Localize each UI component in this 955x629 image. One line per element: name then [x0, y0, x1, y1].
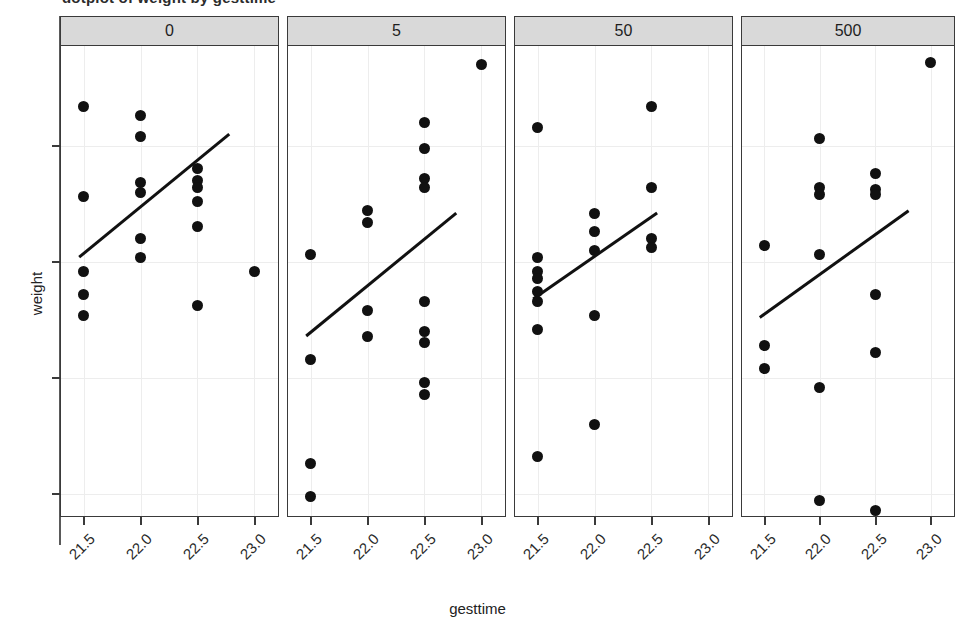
- x-tick-label: 21.5: [512, 530, 552, 570]
- y-tick-mark: [52, 377, 60, 379]
- data-point: [759, 340, 770, 351]
- regression-line: [742, 46, 954, 516]
- x-tick-mark: [875, 517, 877, 525]
- data-point: [759, 363, 770, 374]
- x-tick-mark: [481, 517, 483, 525]
- data-point: [759, 240, 770, 251]
- data-point: [589, 245, 600, 256]
- x-tick-label: 22.5: [172, 530, 212, 570]
- facet-panel-body: [741, 46, 955, 517]
- data-point: [589, 208, 600, 219]
- data-point: [78, 101, 89, 112]
- data-point: [192, 196, 203, 207]
- data-point: [870, 168, 881, 179]
- data-point: [589, 419, 600, 430]
- x-tick-label: 23.0: [455, 530, 495, 570]
- x-tick-label: 23.0: [682, 530, 722, 570]
- data-point: [814, 382, 825, 393]
- x-tick-mark: [367, 517, 369, 525]
- x-tick-label: 22.0: [115, 530, 155, 570]
- y-tick-mark: [52, 493, 60, 495]
- data-point: [925, 57, 936, 68]
- x-tick-label: 22.5: [399, 530, 439, 570]
- x-tick-label: 21.5: [58, 530, 98, 570]
- data-point: [532, 122, 543, 133]
- data-point: [362, 217, 373, 228]
- data-point: [135, 252, 146, 263]
- data-point: [362, 305, 373, 316]
- x-tick-mark: [764, 517, 766, 525]
- data-point: [419, 143, 430, 154]
- x-tick-mark: [594, 517, 596, 525]
- x-tick-mark: [930, 517, 932, 525]
- regression-line: [515, 46, 732, 516]
- x-tick-mark: [651, 517, 653, 525]
- x-tick-label: 21.5: [285, 530, 325, 570]
- x-tick-mark: [424, 517, 426, 525]
- x-tick-label: 23.0: [905, 530, 945, 570]
- data-point: [532, 273, 543, 284]
- x-tick-mark: [140, 517, 142, 525]
- x-tick-label: 22.0: [794, 530, 834, 570]
- facet-panel: 5: [287, 16, 506, 517]
- facet-panel: 50: [514, 16, 733, 517]
- x-tick-mark: [83, 517, 85, 525]
- facet-panel-body: [60, 46, 279, 517]
- data-point: [532, 296, 543, 307]
- facet-panel: 500: [741, 16, 955, 517]
- x-tick-label: 22.0: [569, 530, 609, 570]
- facet-panel: 0: [60, 16, 279, 517]
- x-tick-label: 21.5: [738, 530, 778, 570]
- x-tick-label: 22.5: [626, 530, 666, 570]
- facet-panel-body: [287, 46, 506, 517]
- data-point: [646, 182, 657, 193]
- data-point: [419, 377, 430, 388]
- x-tick-mark: [310, 517, 312, 525]
- x-tick-mark: [254, 517, 256, 525]
- data-point: [135, 187, 146, 198]
- data-point: [870, 347, 881, 358]
- data-point: [532, 324, 543, 335]
- data-point: [192, 182, 203, 193]
- x-tick-label: 23.0: [228, 530, 268, 570]
- data-point: [870, 289, 881, 300]
- data-point: [870, 189, 881, 200]
- regression-line: [288, 46, 505, 516]
- data-point: [135, 131, 146, 142]
- x-tick-label: 22.5: [849, 530, 889, 570]
- facet-strip-label: 5: [287, 16, 506, 46]
- facet-strip-label: 50: [514, 16, 733, 46]
- regression-line: [61, 46, 278, 516]
- data-point: [419, 117, 430, 128]
- y-tick-mark: [52, 145, 60, 147]
- data-point: [362, 331, 373, 342]
- data-point: [532, 252, 543, 263]
- data-point: [476, 59, 487, 70]
- data-point: [78, 289, 89, 300]
- facet-strip-label: 500: [741, 16, 955, 46]
- x-tick-mark: [537, 517, 539, 525]
- data-point: [419, 389, 430, 400]
- data-point: [419, 296, 430, 307]
- facet-strip-label: 0: [60, 16, 279, 46]
- y-tick-mark: [52, 261, 60, 263]
- x-tick-mark: [708, 517, 710, 525]
- x-tick-label: 22.0: [342, 530, 382, 570]
- x-tick-mark: [819, 517, 821, 525]
- data-point: [305, 354, 316, 365]
- y-axis-title: weight: [28, 234, 45, 354]
- data-point: [249, 266, 260, 277]
- facet-panel-body: [514, 46, 733, 517]
- data-point: [870, 505, 881, 516]
- data-point: [419, 326, 430, 337]
- plot-title: dotplot of weight by gesttime: [62, 0, 276, 6]
- chart-canvas: dotplot of weight by gesttime weight 202…: [0, 0, 955, 629]
- data-point: [646, 101, 657, 112]
- data-point: [589, 310, 600, 321]
- data-point: [419, 182, 430, 193]
- x-axis-title: gesttime: [0, 600, 955, 617]
- x-tick-mark: [197, 517, 199, 525]
- data-point: [305, 491, 316, 502]
- data-point: [78, 310, 89, 321]
- data-point: [78, 266, 89, 277]
